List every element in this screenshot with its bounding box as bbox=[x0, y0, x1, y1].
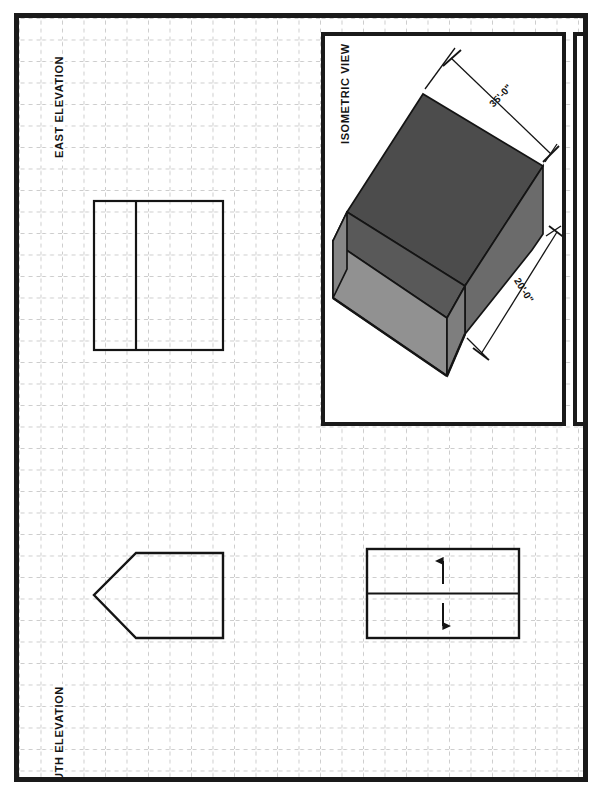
drawing-field: 35'-0" 20'-0" EA bbox=[19, 18, 583, 777]
sheet-border: 35'-0" 20'-0" EA bbox=[14, 13, 588, 782]
iso-dim-width-tick-2 bbox=[473, 348, 489, 360]
iso-dim-width-ext-a bbox=[546, 226, 561, 236]
label-east-elevation: EAST ELEVATION bbox=[53, 54, 65, 160]
drawing-sheet: 35'-0" 20'-0" EA bbox=[0, 0, 602, 796]
isometric-view-box: 35'-0" 20'-0" bbox=[321, 32, 566, 426]
label-south-elevation: SOUTH ELEVATION bbox=[53, 684, 65, 777]
iso-dimension-width-label: 20'-0" bbox=[512, 276, 536, 305]
iso-dim-length-ext-a bbox=[425, 48, 455, 89]
isometric-building-drawing: 35'-0" 20'-0" bbox=[325, 36, 562, 422]
label-isometric-view: ISOMETRIC VIEW bbox=[339, 41, 351, 146]
title-block bbox=[573, 32, 583, 426]
